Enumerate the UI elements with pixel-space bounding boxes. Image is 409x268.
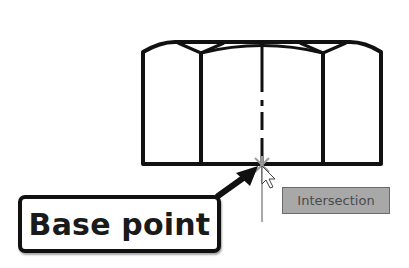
callout-label: Base point xyxy=(29,207,211,242)
snap-tooltip: Intersection xyxy=(282,187,390,214)
callout-arrow-icon xyxy=(218,166,258,196)
mouse-pointer-icon xyxy=(262,166,275,188)
snap-tooltip-label: Intersection xyxy=(297,193,374,208)
base-point-callout: Base point xyxy=(18,195,221,253)
